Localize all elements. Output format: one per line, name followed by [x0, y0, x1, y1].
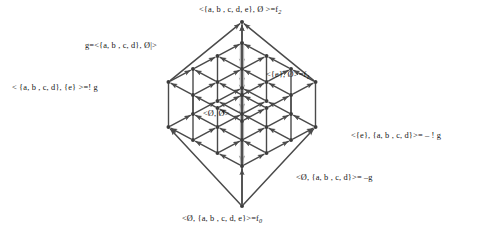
plane-edge-i	[220, 57, 240, 67]
label-f1-node-text: <{e}, Ø>=f	[266, 70, 306, 79]
lattice-node-L0-0-2	[191, 67, 195, 71]
lattice-node-L1-1-3	[191, 138, 195, 142]
plane-edge-j	[293, 83, 313, 93]
lattice-node-L1-3-0	[314, 125, 318, 129]
label-top-apex-subscript: 2	[278, 8, 281, 15]
plane-edge-i	[196, 70, 216, 80]
plane-edge-j	[269, 141, 289, 151]
label-bang-g-node-text: < {a, b , c, d}, {e} >=! g	[12, 83, 98, 92]
diagram-canvas: <{a, b , c, d, e}, Ø >=f2g=<{a, b , c, d…	[0, 0, 484, 244]
plane-edge-j	[195, 128, 215, 138]
lattice-node-L0-2-1	[265, 80, 269, 84]
apex-bottom-node	[240, 204, 244, 208]
lattice-node-L0-1-0	[265, 54, 269, 58]
plane-edge-i	[220, 83, 240, 93]
lattice-node-L1-2-1	[265, 125, 269, 129]
lattice-node-L0-3-1	[289, 93, 293, 97]
lattice-node-L0-0-3	[167, 80, 171, 84]
lattice-node-L1-3-3	[240, 164, 244, 168]
plane-edge-j	[220, 44, 240, 54]
lattice-node-L0-1-2	[216, 80, 220, 84]
lattice-node-L0-3-2	[265, 106, 269, 110]
apex-bottom-edge	[171, 129, 241, 204]
lattice-node-L1-0-3	[167, 125, 171, 129]
label-neg-g-node: <Ø, {a, b , c, d}>= –g	[296, 174, 373, 183]
label-g-node: g=<{a, b , c, d}, Ø|>	[85, 42, 157, 51]
label-center-node-text: <Ø, Ø>	[203, 109, 230, 118]
plane-edge-j	[220, 70, 240, 80]
lattice-node-L1-0-1	[216, 99, 220, 103]
lattice-node-L1-3-2	[265, 151, 269, 155]
label-bottom-apex-text: <Ø, {a, b , c, d, e}>=f	[182, 214, 259, 223]
lattice-node-L1-2-0	[289, 112, 293, 116]
apex-top-edge	[170, 24, 239, 81]
apex-bottom-edge	[244, 129, 314, 204]
plane-edge-j	[195, 57, 215, 67]
plane-edge-i	[245, 141, 265, 151]
plane-edge-j	[244, 128, 264, 138]
lattice-node-L1-0-0	[240, 86, 244, 90]
lattice-graph	[0, 0, 484, 244]
lattice-node-L1-0-2	[191, 112, 195, 116]
lattice-node-L0-1-1	[240, 67, 244, 71]
plane-edge-j	[244, 83, 264, 93]
plane-edge-i	[171, 83, 191, 93]
lattice-node-L1-3-1	[289, 138, 293, 142]
label-bottom-apex: <Ø, {a, b , c, d, e}>=f0	[182, 215, 262, 224]
plane-edge-i	[245, 44, 265, 54]
plane-edge-i	[269, 102, 289, 112]
label-neg-g-node-text: <Ø, {a, b , c, d}>= –g	[296, 173, 373, 182]
plane-edge-i	[245, 115, 265, 125]
label-center-node: <Ø, Ø>	[203, 110, 230, 119]
label-f1-node-subscript: 1	[306, 73, 309, 80]
lattice-node-L0-3-0	[314, 80, 318, 84]
plane-edge-i	[196, 141, 216, 151]
plane-edge-i	[220, 154, 240, 164]
plane-edge-i	[245, 70, 265, 80]
lattice-node-L0-1-3	[191, 93, 195, 97]
plane-edge-i	[269, 83, 289, 93]
plane-edge-i	[294, 115, 314, 125]
label-neg-bang-g-node: <{e}, {a, b , c, d}>= – ! g	[351, 132, 441, 141]
plane-edge-j	[171, 115, 191, 125]
plane-edge-i	[196, 96, 216, 106]
plane-edge-j	[244, 154, 264, 164]
label-neg-bang-g-node-text: <{e}, {a, b , c, d}>= – ! g	[351, 131, 441, 140]
lattice-node-L1-2-3	[216, 151, 220, 155]
lattice-node-L0-3-3	[240, 119, 244, 123]
label-g-node-text: g=<{a, b , c, d}, Ø|>	[85, 41, 157, 50]
lattice-node-L0-0-1	[216, 54, 220, 58]
lattice-node-L0-0-0	[240, 41, 244, 45]
plane-edge-j	[244, 57, 264, 67]
plane-edge-j	[195, 83, 215, 93]
label-bottom-apex-subscript: 0	[259, 217, 262, 224]
plane-edge-j	[220, 141, 240, 151]
plane-edge-i	[269, 57, 289, 67]
plane-edge-j	[269, 96, 289, 106]
lattice-node-L1-1-2	[216, 125, 220, 129]
apex-top-node	[240, 20, 244, 24]
lattice-node-L1-2-2	[240, 138, 244, 142]
lattice-node-L0-2-2	[240, 93, 244, 97]
plane-edge-i	[269, 128, 289, 138]
lattice-node-L1-1-0	[265, 99, 269, 103]
plane-edge-i	[220, 128, 240, 138]
plane-edge-j	[269, 115, 289, 125]
label-top-apex-text: <{a, b , c, d, e}, Ø >=f	[199, 5, 278, 14]
label-f1-node: <{e}, Ø>=f1	[266, 71, 310, 80]
label-bang-g-node: < {a, b , c, d}, {e} >=! g	[12, 84, 98, 93]
label-top-apex: <{a, b , c, d, e}, Ø >=f2	[199, 6, 282, 15]
lattice-node-L1-1-1	[240, 112, 244, 116]
